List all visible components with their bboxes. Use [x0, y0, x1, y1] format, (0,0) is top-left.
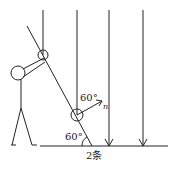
sight-line-lower [23, 62, 45, 77]
person-leg-left [12, 108, 21, 145]
person-head [11, 66, 25, 80]
sight-line-upper [23, 58, 44, 69]
normal-arrow [77, 101, 102, 115]
caption-label: 2条 [86, 151, 102, 161]
normal-symbol-label: n [103, 103, 108, 111]
optics-diagram: 60° n 60° 2条 [0, 0, 175, 169]
diagram-drawing [0, 0, 175, 169]
person-leg-right [21, 108, 32, 145]
angle-normal-label: 60° [80, 93, 98, 103]
ground-angle-arc [82, 137, 87, 146]
angle-ground-label: 60° [65, 132, 83, 142]
mirror-line [27, 26, 92, 146]
